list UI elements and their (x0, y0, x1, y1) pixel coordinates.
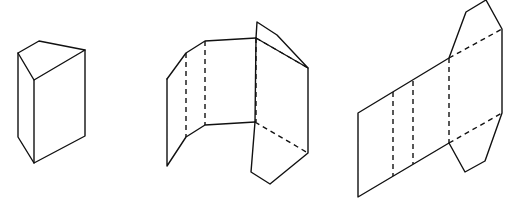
fold-line (449, 113, 502, 143)
edge-line (255, 38, 256, 122)
diagram-canvas (0, 0, 513, 204)
edge-line (18, 50, 85, 163)
partially-unfolded-prism (167, 22, 308, 184)
fold-line (255, 122, 308, 153)
fold-line (449, 29, 502, 58)
edge-line (358, 0, 502, 197)
edge-line (167, 79, 255, 166)
closed-triangular-prism (18, 41, 85, 163)
flat-prism-net (358, 0, 502, 197)
edge-line (251, 22, 308, 184)
edge-line (18, 41, 85, 80)
edge-line (167, 38, 308, 79)
prism-net-diagram (0, 0, 513, 204)
